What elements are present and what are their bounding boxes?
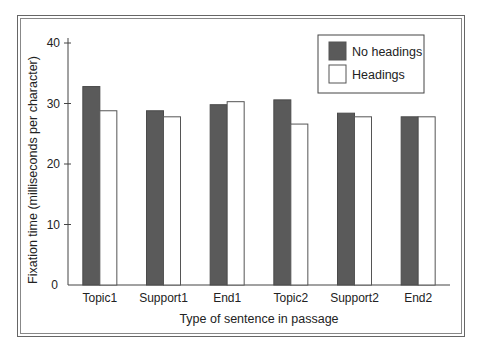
bar-no-headings-support1 [147,111,164,285]
y-tick-label: 10 [47,218,61,232]
x-category-label: Support2 [330,291,379,305]
bar-headings-topic1 [100,111,117,285]
x-category-label: End2 [404,291,432,305]
bar-headings-topic2 [291,124,308,285]
legend-swatch-headings [329,65,346,83]
x-axis-title: Type of sentence in passage [179,312,338,326]
y-tick-label: 30 [47,97,61,111]
bar-chart: 010203040Topic1Support1End1Topic2Support… [0,0,482,355]
bar-headings-end2 [418,117,435,285]
x-category-label: Support1 [139,291,188,305]
legend-swatch-no-headings [329,42,346,60]
x-category-label: Topic1 [82,291,117,305]
y-tick-label: 40 [47,36,61,50]
bar-no-headings-topic1 [83,87,100,285]
bar-no-headings-support2 [338,113,355,285]
bar-no-headings-topic2 [274,100,291,285]
bar-headings-end1 [227,102,244,285]
legend-label: Headings [352,68,405,82]
y-axis-title: Fixation time (milliseconds per characte… [26,56,40,284]
x-category-label: End1 [213,291,241,305]
x-category-label: Topic2 [273,291,308,305]
legend-label: No headings [352,45,422,59]
bar-no-headings-end1 [210,105,227,285]
bar-headings-support1 [164,117,181,285]
bar-headings-support2 [355,117,372,285]
y-tick-label: 20 [47,157,61,171]
bar-no-headings-end2 [401,117,418,285]
y-tick-label: 0 [51,278,58,292]
